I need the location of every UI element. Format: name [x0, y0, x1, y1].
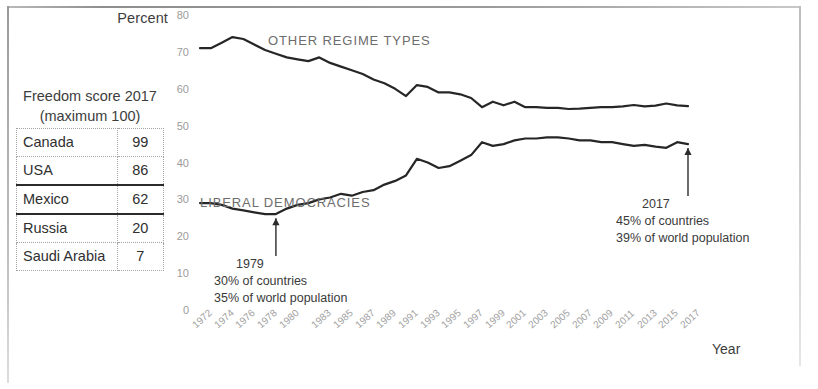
annotation-1979: 1979 30% of countries 35% of world popul… — [214, 256, 347, 307]
annotation-2017-line1: 45% of countries — [616, 214, 709, 228]
annotation-arrow-1979-head — [272, 218, 279, 225]
x-axis-title: Year — [712, 341, 740, 357]
annotation-1979-year: 1979 — [214, 256, 347, 273]
annotation-2017-line2: 39% of world population — [616, 231, 749, 245]
annotation-1979-line2: 35% of world population — [214, 291, 347, 305]
series-label-liberal-democracies: LIBERAL DEMOCRACIES — [200, 195, 371, 210]
annotation-arrow-2017-head — [684, 148, 691, 155]
figure-scan: Percent Freedom score 2017 (maximum 100)… — [0, 0, 818, 389]
series-label-other-regime-types: OTHER REGIME TYPES — [268, 33, 431, 48]
annotation-2017-year: 2017 — [616, 196, 749, 213]
annotation-2017: 2017 45% of countries 39% of world popul… — [616, 196, 749, 247]
line-chart-plot: 01020304050607080 1972197419761978198019… — [0, 0, 818, 389]
annotation-1979-line1: 30% of countries — [214, 274, 307, 288]
series-lines-svg — [0, 0, 818, 389]
